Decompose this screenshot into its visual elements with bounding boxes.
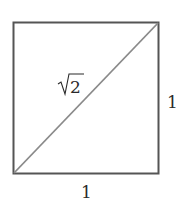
square-diagonal-diagram: 2 1 1 (0, 0, 183, 207)
right-side-label: 1 (167, 92, 178, 112)
diagonal-label: 2 (58, 74, 84, 97)
diagonal-line (14, 23, 158, 173)
diagonal-radicand: 2 (70, 77, 81, 97)
bottom-side-label: 1 (81, 182, 92, 202)
